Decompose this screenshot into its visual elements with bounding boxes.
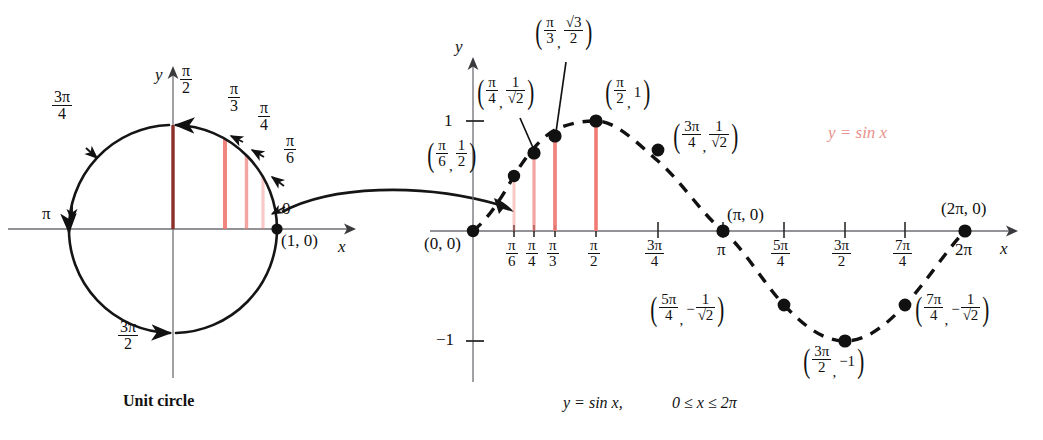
unit-circle-angle-pointers xyxy=(72,136,285,221)
unit-circle-angle-pi-over-3: π3 xyxy=(228,82,240,116)
paren-close: ) xyxy=(469,143,476,167)
sine-caption-domain: 0 ≤ x ≤ 2π xyxy=(672,394,737,412)
math-figure: y x π2 π3 π4 π6 0 3π4 π 3π2 (1, 0) Unit … xyxy=(0,0,1043,440)
sine-y-tick-1: 1 xyxy=(444,112,453,129)
paren-open: ( xyxy=(915,297,922,321)
unit-circle-x-axis-label: x xyxy=(338,238,346,255)
sine-caption-expression: y = sin x, xyxy=(563,394,623,412)
unit-circle-angle-pi-over-4: π4 xyxy=(258,101,270,135)
paren-open: ( xyxy=(535,20,542,44)
paren-close: ) xyxy=(528,80,535,104)
sine-xtick-seven-pi-over-4: 7π4 xyxy=(893,239,912,271)
sine-xtick-pi: π xyxy=(717,241,726,258)
unit-circle-angle-pi-over-6: π6 xyxy=(284,134,296,168)
sine-origin-label: (0, 0) xyxy=(424,235,461,252)
sine-point-label-pi-over-2: ( π2 , 1 ) xyxy=(603,76,652,108)
paren-open: ( xyxy=(427,143,434,167)
sine-y-axis-label: y xyxy=(455,38,463,55)
unit-circle-y-axis-label: y xyxy=(155,66,163,83)
sine-point-label-three-pi-over-4: ( 3π4 , 1√2 ) xyxy=(671,120,740,152)
sine-point-label-five-pi-over-4: ( 5π4 , − 1√2 ) xyxy=(648,293,727,325)
paren-close: ) xyxy=(983,297,990,321)
paren-close: ) xyxy=(857,349,864,373)
paren-close: ) xyxy=(718,297,725,321)
sine-xtick-pi-over-3: π3 xyxy=(547,239,559,271)
sine-point-label-seven-pi-over-4: ( 7π4 , − 1√2 ) xyxy=(913,293,992,325)
sine-xtick-pi-over-4: π4 xyxy=(526,239,538,271)
paren-close: ) xyxy=(586,20,593,44)
sine-y-tick-minus-1: −1 xyxy=(436,331,454,348)
paren-open: ( xyxy=(673,124,680,148)
sine-x-axis-label: x xyxy=(1000,240,1008,257)
sine-xtick-three-pi-over-4: 3π4 xyxy=(645,239,664,271)
sine-point-label-two-pi: (2π, 0) xyxy=(941,200,986,217)
paren-open: ( xyxy=(803,349,810,373)
sine-point-label-pi-over-6: ( π6 , 12 ) xyxy=(425,139,478,171)
sine-xtick-two-pi: 2π xyxy=(955,241,972,258)
sine-point-label-pi-over-3: ( π3 , √32 ) xyxy=(533,16,595,48)
unit-circle-angle-three-pi-over-4: 3π4 xyxy=(52,90,72,124)
paren-open: ( xyxy=(605,80,612,104)
unit-circle-angle-pi: π xyxy=(42,205,51,222)
sine-xtick-five-pi-over-4: 5π4 xyxy=(771,239,790,271)
sine-xtick-pi-over-2: π2 xyxy=(588,239,600,271)
sine-curve-label: y = sin x xyxy=(828,123,887,143)
paren-close: ) xyxy=(731,124,738,148)
sine-point-label-three-pi-over-2: ( 3π2 , −1 ) xyxy=(801,345,866,377)
paren-close: ) xyxy=(643,80,650,104)
unit-circle-angle-zero: 0 xyxy=(282,200,291,217)
unit-circle-red-chords xyxy=(173,125,263,229)
unit-circle-angle-pi-over-2: π2 xyxy=(180,64,192,98)
sine-point-label-pi: (π, 0) xyxy=(727,206,764,223)
unit-circle-point-label: (1, 0) xyxy=(281,232,318,249)
unit-circle-angle-three-pi-over-2: 3π2 xyxy=(118,320,138,354)
unit-circle-caption: Unit circle xyxy=(123,392,194,410)
paren-open: ( xyxy=(477,80,484,104)
paren-open: ( xyxy=(650,297,657,321)
sine-xtick-three-pi-over-2: 3π2 xyxy=(832,239,851,271)
wrap-connector-arrow xyxy=(282,190,500,212)
sine-point-label-pi-over-4: ( π4 , 1√2 ) xyxy=(475,76,537,108)
sine-xtick-pi-over-6: π6 xyxy=(506,239,518,271)
